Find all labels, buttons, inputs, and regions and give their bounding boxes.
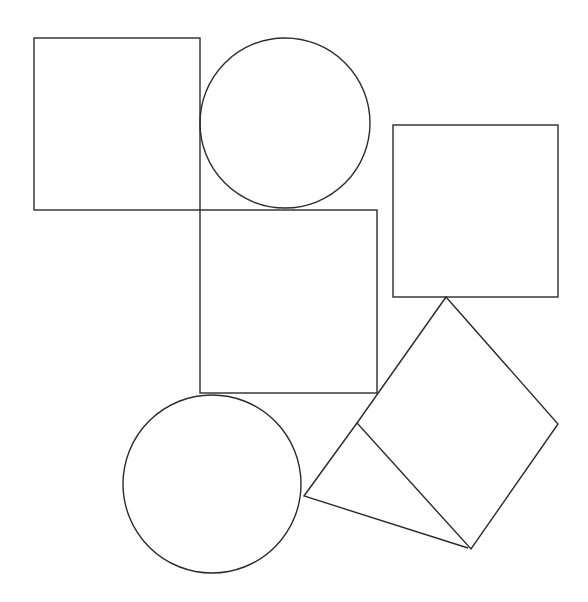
square-middle — [200, 210, 377, 393]
circle-bottom — [123, 395, 301, 573]
diamond — [357, 297, 558, 549]
circle-top — [200, 38, 370, 208]
square-top-left — [34, 38, 200, 210]
square-right — [393, 125, 558, 297]
triangle — [304, 423, 468, 548]
diagram-canvas — [0, 0, 588, 602]
